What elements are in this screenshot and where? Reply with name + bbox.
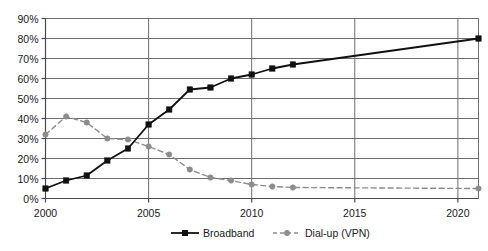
data-point-marker bbox=[208, 85, 213, 90]
chart-container: 0%10%20%30%40%50%60%70%80%90%20002005201… bbox=[0, 0, 488, 251]
data-point-marker bbox=[43, 186, 48, 191]
data-point-marker bbox=[228, 178, 233, 183]
data-point-marker bbox=[270, 66, 275, 71]
data-point-marker bbox=[167, 107, 172, 112]
grid-lines bbox=[46, 19, 479, 199]
series-line bbox=[46, 39, 479, 189]
data-point-marker bbox=[476, 36, 481, 41]
data-point-marker bbox=[43, 132, 48, 137]
y-axis-tick-label: 50% bbox=[17, 93, 38, 105]
data-point-marker bbox=[84, 120, 89, 125]
y-axis-tick-label: 20% bbox=[17, 153, 38, 165]
data-point-marker bbox=[105, 136, 110, 141]
data-point-marker bbox=[270, 184, 275, 189]
x-axis-tick-label: 2005 bbox=[137, 207, 160, 219]
data-point-marker bbox=[290, 185, 295, 190]
data-point-marker bbox=[125, 146, 130, 151]
series-dialup-vpn bbox=[43, 114, 481, 191]
data-point-marker bbox=[84, 173, 89, 178]
legend-item-label[interactable]: Dial-up (VPN) bbox=[305, 227, 370, 239]
data-point-marker bbox=[63, 114, 68, 119]
y-axis-tick-label: 60% bbox=[17, 73, 38, 85]
y-axis-tick-label: 40% bbox=[17, 113, 38, 125]
data-point-marker bbox=[476, 186, 481, 191]
y-axis-tick-label: 30% bbox=[17, 133, 38, 145]
x-axis-tick-label: 2020 bbox=[446, 207, 469, 219]
legend-item-label[interactable]: Broadband bbox=[203, 227, 254, 239]
x-axis-tick-label: 2010 bbox=[240, 207, 263, 219]
data-point-marker bbox=[187, 87, 192, 92]
series-broadband bbox=[43, 36, 481, 191]
data-point-marker bbox=[146, 122, 151, 127]
series-line bbox=[46, 117, 479, 189]
data-point-marker bbox=[146, 144, 151, 149]
data-point-marker bbox=[187, 167, 192, 172]
data-point-marker bbox=[290, 62, 295, 67]
legend-marker-swatch bbox=[284, 230, 290, 236]
data-point-marker bbox=[125, 137, 130, 142]
y-axis-tick-label: 10% bbox=[17, 173, 38, 185]
data-point-marker bbox=[63, 178, 68, 183]
plot-frame bbox=[42, 19, 479, 203]
data-point-marker bbox=[105, 158, 110, 163]
data-point-marker bbox=[167, 152, 172, 157]
x-axis-tick-label: 2000 bbox=[34, 207, 57, 219]
data-point-marker bbox=[249, 182, 254, 187]
data-point-marker bbox=[249, 72, 254, 77]
y-axis-tick-label: 80% bbox=[17, 33, 38, 45]
y-axis-tick-label: 90% bbox=[17, 13, 38, 25]
x-axis-tick-label: 2015 bbox=[343, 207, 366, 219]
data-point-marker bbox=[208, 175, 213, 180]
data-point-marker bbox=[228, 76, 233, 81]
y-axis-tick-label: 0% bbox=[23, 193, 38, 205]
y-axis-tick-label: 70% bbox=[17, 53, 38, 65]
legend-marker-swatch bbox=[182, 230, 188, 236]
